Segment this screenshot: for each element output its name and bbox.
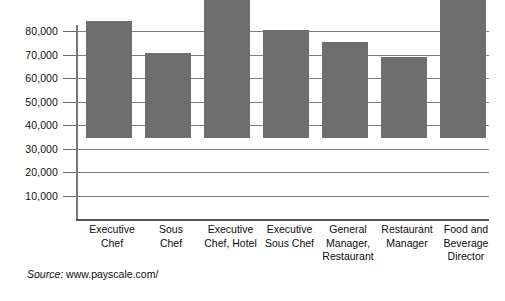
- source-label: Source:: [27, 268, 63, 280]
- y-tick-label: 80,000: [25, 26, 58, 37]
- bar-sous-chef: [145, 53, 191, 138]
- y-tick-label: 30,000: [25, 144, 58, 155]
- salary-bar-chart: 80,000 70,000 60,000 50,000 40,000 30,00…: [0, 0, 505, 301]
- y-axis-label-group: 80,000 70,000 60,000 50,000 40,000 30,00…: [0, 0, 58, 301]
- bar-general-manager-restaurant: [322, 42, 368, 138]
- y-tick-mark: [63, 78, 76, 79]
- y-tick-label: 40,000: [25, 120, 58, 131]
- bar-restaurant-manager: [381, 57, 427, 138]
- source-url: www.payscale.com/: [66, 268, 158, 280]
- x-axis-line: [76, 219, 489, 221]
- y-tick-label: 60,000: [25, 73, 58, 84]
- y-tick-mark: [63, 196, 76, 197]
- y-tick-label: 10,000: [25, 191, 58, 202]
- y-tick-mark: [63, 125, 76, 126]
- y-tick-label: 50,000: [25, 97, 58, 108]
- y-tick-mark: [63, 102, 76, 103]
- y-tick-mark: [63, 55, 76, 56]
- source-note: Source: www.payscale.com/: [27, 268, 158, 280]
- bar-group: [76, 0, 489, 220]
- x-axis-label-food-and-beverage-director: Food and Beverage Director: [426, 223, 505, 264]
- y-tick-mark: [63, 31, 76, 32]
- bar-food-and-beverage-director: [440, 0, 486, 138]
- bar-executive-chef: [86, 21, 132, 139]
- y-tick-mark: [63, 149, 76, 150]
- y-axis-line: [76, 25, 78, 220]
- y-tick-label: 20,000: [25, 167, 58, 178]
- y-tick-mark: [63, 172, 76, 173]
- y-tick-label: 70,000: [25, 50, 58, 61]
- bar-executive-chef-hotel: [204, 0, 250, 138]
- bar-executive-sous-chef: [263, 30, 309, 138]
